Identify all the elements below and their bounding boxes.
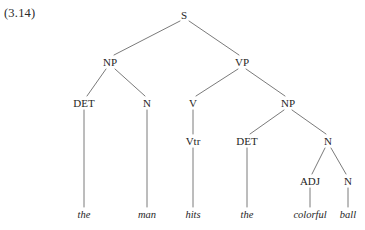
leaf-colorful: colorful bbox=[293, 210, 326, 221]
edge-vp-np bbox=[246, 69, 285, 96]
leaf-the-2: the bbox=[241, 210, 254, 221]
edge-npobj-det2 bbox=[250, 110, 284, 134]
node-adj: ADJ bbox=[300, 176, 320, 187]
node-vp: VP bbox=[235, 57, 249, 68]
leaf-ball: ball bbox=[340, 210, 356, 221]
edge-np-det bbox=[87, 69, 106, 96]
leaf-man: man bbox=[138, 210, 156, 221]
tree-edges-canvas bbox=[0, 0, 365, 230]
edge-vp-v bbox=[196, 69, 238, 96]
leaf-the-1: the bbox=[78, 210, 91, 221]
node-det-1: DET bbox=[73, 98, 94, 109]
node-vtr: Vtr bbox=[186, 136, 201, 147]
edge-np-n bbox=[115, 69, 145, 96]
edge-s-np bbox=[114, 21, 180, 55]
node-np-subject: NP bbox=[103, 57, 117, 68]
node-v: V bbox=[189, 98, 197, 109]
edge-s-vp bbox=[189, 21, 239, 55]
edge-npobj-n2 bbox=[292, 110, 326, 134]
leaf-hits: hits bbox=[185, 210, 200, 221]
syntax-tree-figure: (3.14) S NP VP DET N V NP Vtr DET N ADJ … bbox=[0, 0, 365, 230]
node-n-1: N bbox=[143, 98, 151, 109]
node-s: S bbox=[181, 10, 187, 21]
edge-n2-adj bbox=[312, 148, 325, 174]
edge-n2-n3 bbox=[331, 148, 346, 174]
node-n-2: N bbox=[324, 136, 332, 147]
node-det-2: DET bbox=[236, 136, 257, 147]
node-np-object: NP bbox=[281, 98, 295, 109]
node-n-3: N bbox=[344, 176, 352, 187]
